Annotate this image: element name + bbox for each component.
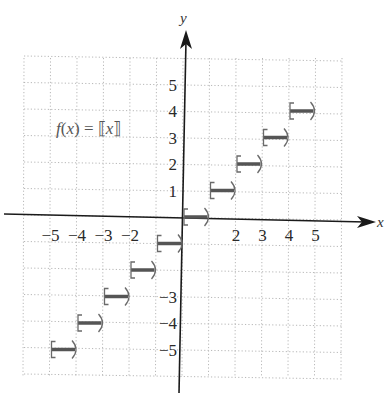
step-segment xyxy=(158,235,183,253)
y-tick-label: −5 xyxy=(159,341,177,360)
grid-line-vertical xyxy=(288,58,289,376)
grid-line-vertical xyxy=(23,58,24,376)
grid-line-vertical xyxy=(341,58,342,376)
y-axis-label: y xyxy=(178,10,187,26)
step-segment xyxy=(131,261,156,279)
x-tick-label: 5 xyxy=(311,226,320,245)
x-tick-label: −4 xyxy=(68,226,87,245)
axes xyxy=(4,30,376,393)
step-segment xyxy=(184,208,209,226)
step-segment xyxy=(211,182,236,200)
grid-line-vertical xyxy=(262,58,263,376)
grid-line-vertical xyxy=(50,58,51,376)
y-tick-label: 1 xyxy=(169,182,178,201)
grid-line-vertical xyxy=(315,58,316,376)
grid-line-horizontal xyxy=(24,374,342,379)
y-tick-label: −3 xyxy=(159,288,177,307)
step-segment xyxy=(78,314,103,332)
y-tick-label: −4 xyxy=(159,314,178,333)
y-tick-label: 3 xyxy=(169,129,178,148)
grid-line-horizontal xyxy=(24,83,342,88)
grid-line-vertical xyxy=(103,58,104,376)
y-tick-label: 4 xyxy=(169,102,178,121)
x-tick-label: −5 xyxy=(41,226,59,245)
step-segment xyxy=(105,288,130,306)
x-tick-label: −2 xyxy=(121,226,139,245)
grid-line-horizontal xyxy=(24,321,342,326)
function-label: f(x) = ⟦x⟧ xyxy=(56,119,121,138)
step-function-chart: x y −5−4−3−22345 54321−3−4−5 f(x) = ⟦x⟧ xyxy=(0,0,387,409)
step-segment xyxy=(264,129,289,147)
x-tick-label: 2 xyxy=(232,226,241,245)
step-segment xyxy=(52,341,77,359)
x-tick-label: 4 xyxy=(285,226,294,245)
grid-line-horizontal xyxy=(24,268,342,273)
grid-line-vertical xyxy=(235,58,236,376)
grid-line-vertical xyxy=(76,58,77,376)
step-segment xyxy=(290,102,315,120)
x-axis-label: x xyxy=(376,214,384,230)
x-tick-label: −3 xyxy=(94,226,112,245)
y-tick-label: 5 xyxy=(169,76,178,95)
grid-line-horizontal xyxy=(24,295,342,300)
y-tick-label: 2 xyxy=(169,155,178,174)
step-segment xyxy=(237,155,262,173)
x-tick-label: 3 xyxy=(258,226,267,245)
